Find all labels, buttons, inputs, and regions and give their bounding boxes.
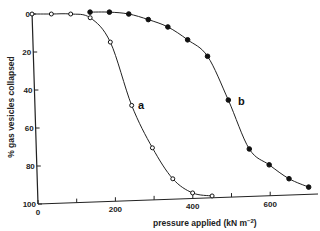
data-point-a [171,177,175,181]
data-point-b [126,12,131,17]
y-tick-label: 60 [25,124,34,133]
x-axis-title: pressure applied (kN m−2) [153,218,257,228]
data-point-b [226,98,231,103]
data-point-b [185,38,190,43]
data-point-a [30,12,34,16]
series-markers [30,10,311,198]
data-point-b [88,10,93,15]
x-tick-label: 200 [109,205,123,214]
series-label-a: a [138,99,145,111]
series-curves [32,12,309,196]
data-point-a [69,12,73,16]
series-curve-b [90,12,309,187]
y-tick-label: 100 [23,200,37,209]
data-point-a [191,191,195,195]
y-tick-label: 20 [22,48,31,57]
data-point-b [107,10,112,15]
x-tick-label: 600 [264,200,278,209]
y-axis-line [32,12,38,204]
chart: 0204060801000200400600 a b pressure appl… [0,0,320,231]
series-curve-a [32,14,212,196]
data-point-a [150,146,154,150]
data-point-b [146,17,151,22]
series-label-b: b [238,95,245,107]
data-point-a [88,16,92,20]
data-point-a [130,103,134,107]
data-point-b [247,147,252,152]
data-point-a [49,12,53,16]
x-tick-label: 400 [186,202,200,211]
y-tick-label: 80 [26,162,35,171]
y-tick-label: 40 [23,86,32,95]
data-point-a [210,194,214,198]
data-point-b [267,163,272,168]
data-point-b [287,176,292,181]
axes: 0204060801000200400600 [22,10,318,217]
data-point-b [205,54,210,59]
y-axis-title: % gas vesicles collapsed [6,56,16,158]
data-point-a [108,40,112,44]
data-point-b [306,185,311,190]
x-tick-label: 0 [36,208,41,217]
data-point-b [166,25,171,30]
